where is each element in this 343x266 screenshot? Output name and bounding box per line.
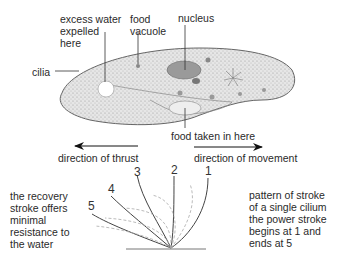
recovery-dashed xyxy=(105,218,171,248)
food-vacuole-dot xyxy=(210,95,215,100)
micronucleus xyxy=(192,78,200,84)
stroke-pattern-note: pattern of stroke of a single cilium the… xyxy=(249,189,327,249)
recovery-line-5: the water xyxy=(10,238,70,250)
food-vacuole-dot xyxy=(136,64,140,68)
stroke-number-2: 2 xyxy=(171,164,178,176)
stroke-number-3: 3 xyxy=(134,166,141,178)
nucleus-label: nucleus xyxy=(178,12,214,24)
food-vacuole-dot xyxy=(206,58,211,63)
food-taken-in-label: food taken in here xyxy=(171,130,255,142)
recovery-dashed xyxy=(95,226,171,248)
recovery-line-2: stroke offers xyxy=(10,202,70,214)
pattern-line-1: pattern of stroke xyxy=(249,189,327,201)
recovery-line-1: the recovery xyxy=(10,190,70,202)
direction-of-thrust-label: direction of thrust xyxy=(58,152,139,164)
food-vacuole-line-1: food xyxy=(130,13,166,25)
food-vacuole-dot xyxy=(178,91,183,96)
excess-water-line-1: excess water xyxy=(60,13,121,25)
food-vacuole-label: food vacuole xyxy=(130,13,166,37)
pattern-line-4: begins at 1 and xyxy=(249,225,327,237)
cilium-position-5 xyxy=(92,214,171,248)
recovery-line-4: resistance to xyxy=(10,226,70,238)
excess-water-line-2: expelled xyxy=(60,25,121,37)
stroke-number-1: 1 xyxy=(205,165,212,177)
cilium-position-1 xyxy=(171,178,208,248)
contractile-vacuole xyxy=(98,81,114,97)
excess-water-label: excess water expelled here xyxy=(60,13,121,49)
food-vacuole-dot xyxy=(238,92,242,96)
food-vacuole-dot xyxy=(262,88,266,92)
pattern-line-3: the power stroke xyxy=(249,213,327,225)
stroke-number-5: 5 xyxy=(88,200,95,212)
cilium-position-4 xyxy=(111,196,171,248)
pattern-line-5: ends at 5 xyxy=(249,237,327,249)
recovery-stroke-note: the recovery stroke offers minimal resis… xyxy=(10,190,70,250)
stroke-number-4: 4 xyxy=(108,183,115,195)
direction-of-movement-label: direction of movement xyxy=(194,152,297,164)
excess-water-line-3: here xyxy=(60,37,121,49)
nucleus xyxy=(167,61,201,79)
food-vacuole-line-2: vacuole xyxy=(130,25,166,37)
recovery-line-3: minimal xyxy=(10,214,70,226)
cilia-label: cilia xyxy=(32,66,50,78)
pattern-line-2: of a single cilium xyxy=(249,201,327,213)
